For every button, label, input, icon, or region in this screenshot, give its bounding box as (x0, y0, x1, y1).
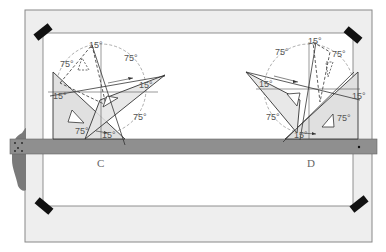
angle-label: 75° (124, 53, 138, 63)
angle-label: 15° (139, 80, 153, 90)
angle-label: 75° (266, 112, 280, 122)
angle-label: 15° (259, 79, 273, 89)
drafting-board-diagram: 15° 75° 75° 15° 15° 75° 75° 15° C 15° (0, 0, 386, 252)
angle-label: 75° (133, 112, 147, 122)
t-square-head (12, 128, 26, 191)
angle-label: 75° (60, 59, 74, 69)
angle-label: 15° (89, 40, 103, 50)
angle-label: 75° (337, 113, 351, 123)
angle-label: 15° (102, 130, 116, 140)
angle-label: 75° (75, 126, 89, 136)
angle-label: 15° (294, 130, 308, 140)
angle-label: 15° (53, 91, 67, 101)
angle-label: 15° (308, 36, 322, 46)
t-square-blade (10, 139, 377, 154)
angle-label: 15° (352, 91, 366, 101)
angle-label: 75° (275, 47, 289, 57)
angle-label: 75° (332, 49, 346, 59)
panel-label-c: C (97, 157, 104, 169)
panel-label-d: D (307, 157, 315, 169)
